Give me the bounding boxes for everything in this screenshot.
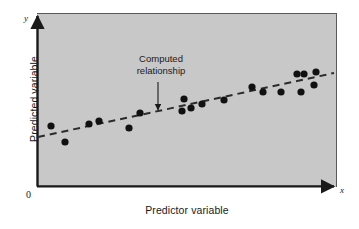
scatter-point: [277, 88, 284, 95]
scatter-point: [310, 81, 317, 88]
scatter-point: [198, 100, 205, 107]
scatter-point: [180, 95, 187, 102]
scatter-point: [220, 96, 227, 103]
scatter-point: [293, 70, 300, 77]
annotation-label: Computed relationship: [121, 53, 201, 77]
scatter-point: [85, 120, 92, 127]
scatter-point: [47, 122, 54, 129]
scatter-point: [136, 109, 143, 116]
scatter-point: [187, 104, 194, 111]
scatter-point: [178, 107, 185, 114]
x-axis-title: Predictor variable: [37, 204, 337, 216]
scatter-point: [300, 70, 307, 77]
scatter-point: [312, 68, 319, 75]
scatter-point: [125, 124, 132, 131]
annotation-line-1: Computed: [121, 53, 201, 65]
annotation-line-2: relationship: [121, 65, 201, 77]
scatter-plot-figure: y x 0 Predicted variable Predictor varia…: [0, 0, 359, 229]
x-axis-tip-letter: x: [340, 185, 344, 195]
y-axis-tip-letter: y: [24, 13, 28, 23]
origin-label: 0: [26, 189, 31, 200]
scatter-point: [248, 83, 255, 90]
scatter-point: [259, 88, 266, 95]
scatter-point: [61, 138, 68, 145]
scatter-point: [95, 117, 102, 124]
y-axis-title: Predicted variable: [28, 29, 40, 169]
chart-canvas: [0, 0, 359, 229]
scatter-point: [297, 88, 304, 95]
